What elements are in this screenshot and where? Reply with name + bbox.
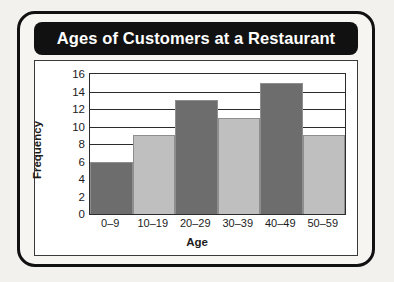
y-tick-label: 16 — [72, 68, 85, 80]
bar-slot — [303, 74, 346, 214]
chart-frame: Ages of Customers at a Restaurant Freque… — [17, 11, 375, 267]
bar — [90, 162, 133, 215]
x-tick-label: 40–49 — [259, 217, 302, 229]
bar-slot — [218, 74, 261, 214]
bar — [218, 118, 261, 214]
bar — [260, 83, 303, 214]
y-tick-label: 10 — [72, 121, 85, 133]
bar-series — [90, 74, 345, 214]
bar-slot — [175, 74, 218, 214]
x-tick-label: 30–39 — [217, 217, 260, 229]
chart-title-banner: Ages of Customers at a Restaurant — [34, 22, 358, 55]
y-tick-label: 4 — [79, 173, 85, 185]
y-tick-label: 12 — [72, 103, 85, 115]
bar — [303, 135, 346, 214]
x-axis-label: Age — [35, 236, 359, 248]
bar — [133, 135, 176, 214]
x-tick-label: 0–9 — [89, 217, 132, 229]
chart-title: Ages of Customers at a Restaurant — [57, 29, 335, 48]
y-tick-label: 8 — [79, 138, 85, 150]
y-axis-label: Frequency — [31, 95, 45, 205]
bar — [175, 100, 218, 214]
x-tick-label: 10–19 — [132, 217, 175, 229]
bar-slot — [90, 74, 133, 214]
x-tick-label: 50–59 — [302, 217, 345, 229]
bar-slot — [260, 74, 303, 214]
y-tick-label: 14 — [72, 86, 85, 98]
y-tick-label: 6 — [79, 156, 85, 168]
plot-area: 0246810121416 — [89, 73, 346, 215]
bar-slot — [133, 74, 176, 214]
y-tick-label: 2 — [79, 191, 85, 203]
x-axis-ticks: 0–910–1920–2930–3940–4950–59 — [89, 217, 344, 229]
y-tick-label: 0 — [79, 208, 85, 220]
plot-panel: Frequency 0246810121416 0–910–1920–2930–… — [34, 60, 358, 256]
x-tick-label: 20–29 — [174, 217, 217, 229]
